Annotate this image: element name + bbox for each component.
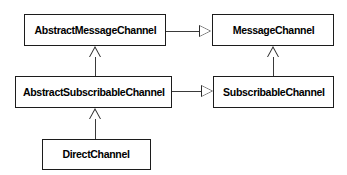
hollow-triangle-arrowhead-icon-message-channel-from-subscribable bbox=[267, 46, 279, 57]
hollow-triangle-arrowhead-icon-message-channel bbox=[199, 25, 211, 37]
class-box-direct-channel[interactable]: DirectChannel bbox=[42, 139, 151, 170]
class-name-abstract-message-channel: AbstractMessageChannel bbox=[34, 25, 156, 36]
class-box-subscribable-channel[interactable]: SubscribableChannel bbox=[213, 76, 334, 108]
class-box-abstract-subscribable-channel[interactable]: AbstractSubscribableChannel bbox=[15, 76, 172, 108]
hollow-triangle-arrowhead-icon-subscribable-channel bbox=[201, 85, 213, 97]
class-box-abstract-message-channel[interactable]: AbstractMessageChannel bbox=[24, 14, 166, 46]
connector-line-abstract-subscribable-channel-to-abstract-message-channel bbox=[95, 57, 96, 76]
connector-line-subscribable-channel-to-message-channel bbox=[273, 57, 274, 76]
class-name-message-channel: MessageChannel bbox=[232, 25, 314, 36]
hollow-triangle-arrowhead-icon-abstract-subscribable-channel bbox=[89, 108, 101, 119]
class-name-abstract-subscribable-channel: AbstractSubscribableChannel bbox=[23, 87, 165, 98]
hollow-triangle-arrowhead-icon-abstract-message-channel bbox=[89, 46, 101, 57]
uml-class-diagram: AbstractMessageChannel MessageChannel Ab… bbox=[0, 0, 347, 175]
connector-line-abstract-subscribable-channel-to-subscribable-channel bbox=[172, 91, 201, 92]
class-name-direct-channel: DirectChannel bbox=[63, 149, 130, 160]
class-box-message-channel[interactable]: MessageChannel bbox=[212, 14, 334, 46]
connector-line-abstract-message-channel-to-message-channel bbox=[166, 31, 199, 32]
class-name-subscribable-channel: SubscribableChannel bbox=[223, 87, 325, 98]
connector-line-direct-channel-to-abstract-subscribable-channel bbox=[95, 119, 96, 139]
